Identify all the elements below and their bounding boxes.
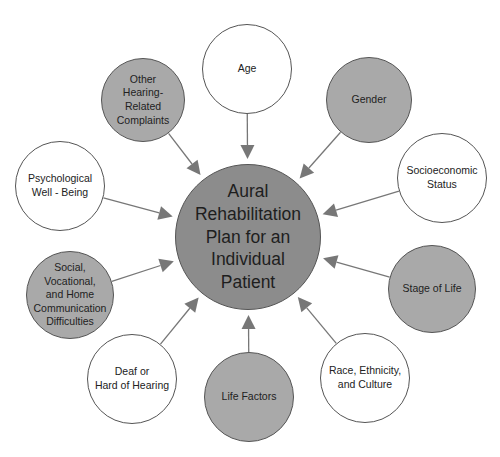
center-node-aural-rehabilitation-plan: Aural Rehabilitation Plan for an Individ… <box>175 164 321 310</box>
arrowhead-icon <box>300 163 315 178</box>
arrowhead-icon <box>184 297 198 312</box>
center-node-label: Aural Rehabilitation Plan for an Individ… <box>189 180 307 294</box>
node-label: Social, Vocational, and Home Communicati… <box>28 261 113 329</box>
arrow-line <box>307 308 337 344</box>
arrowhead-icon <box>298 297 312 312</box>
node-stage-of-life: Stage of Life <box>388 245 476 333</box>
node-label: Other Hearing- Related Complaints <box>111 73 176 128</box>
node-socioeconomic-status: Socioeconomic Status <box>397 133 487 223</box>
arrowhead-icon <box>323 255 338 268</box>
arrow-line <box>103 198 159 213</box>
node-label: Gender <box>345 93 392 107</box>
arrowhead-icon <box>158 259 173 272</box>
arrowhead-icon <box>157 206 172 220</box>
node-label: Deaf or Hard of Hearing <box>89 365 175 392</box>
node-label: Age <box>232 62 263 76</box>
arrowhead-icon <box>240 145 254 159</box>
node-age: Age <box>202 24 292 114</box>
node-other-hearing-related-complaints: Other Hearing- Related Complaints <box>101 58 185 142</box>
arrow-line <box>169 133 192 164</box>
arrow-line <box>337 262 390 277</box>
arrow-line <box>336 191 399 210</box>
node-label: Stage of Life <box>397 282 468 296</box>
arrow-line <box>309 132 341 168</box>
node-label: Life Factors <box>216 390 283 404</box>
node-label: Socioeconomic Status <box>400 164 483 191</box>
node-label: Psychological Well - Being <box>22 172 98 199</box>
node-label: Race, Ethnicity, and Culture <box>323 364 407 391</box>
node-social-vocational-home: Social, Vocational, and Home Communicati… <box>26 251 114 339</box>
node-race-ethnicity-culture: Race, Ethnicity, and Culture <box>320 333 410 423</box>
node-life-factors: Life Factors <box>204 352 294 442</box>
node-deaf-or-hard-of-hearing: Deaf or Hard of Hearing <box>87 334 177 424</box>
node-psychological-well-being: Psychological Well - Being <box>15 141 105 231</box>
arrow-line <box>112 266 161 282</box>
arrowhead-icon <box>242 315 256 329</box>
arrow-line <box>160 308 189 344</box>
arrowhead-icon <box>186 160 200 175</box>
concept-diagram: Aural Rehabilitation Plan for an Individ… <box>0 0 500 457</box>
arrowhead-icon <box>323 204 338 217</box>
node-gender: Gender <box>326 57 412 143</box>
